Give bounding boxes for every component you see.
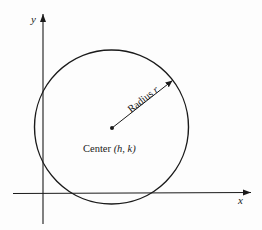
x-axis — [13, 193, 251, 194]
diagram-canvas: y x Radius r Center (h, k) — [0, 0, 262, 230]
radius-label-group: Radius r — [125, 83, 161, 114]
y-axis-label: y — [30, 13, 36, 25]
radius-label: Radius r — [125, 83, 161, 114]
x-axis-label: x — [237, 194, 243, 206]
center-point — [110, 126, 114, 130]
center-label: Center (h, k) — [83, 143, 136, 155]
circle-diagram: y x Radius r Center (h, k) — [0, 0, 262, 230]
